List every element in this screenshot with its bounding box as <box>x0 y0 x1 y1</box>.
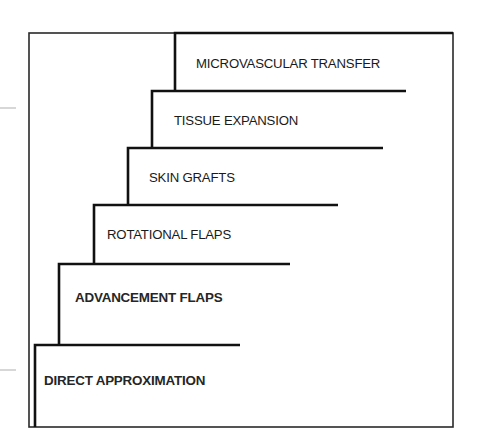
step-skin-grafts: SKIN GRAFTS <box>128 148 383 205</box>
step-tissue-expansion: TISSUE EXPANSION <box>152 91 406 148</box>
reconstructive-ladder-diagram: MICROVASCULAR TRANSFER TISSUE EXPANSION … <box>0 0 477 447</box>
step-advancement-flaps: ADVANCEMENT FLAPS <box>59 264 290 345</box>
step-label: SKIN GRAFTS <box>149 170 235 185</box>
step-direct-approximation: DIRECT APPROXIMATION <box>35 345 240 427</box>
step-label: TISSUE EXPANSION <box>174 113 298 128</box>
step-microvascular-transfer: MICROVASCULAR TRANSFER <box>175 33 453 91</box>
step-label: MICROVASCULAR TRANSFER <box>196 56 380 71</box>
step-label: ADVANCEMENT FLAPS <box>75 290 223 305</box>
ladder-steps: MICROVASCULAR TRANSFER TISSUE EXPANSION … <box>35 33 453 427</box>
step-label: DIRECT APPROXIMATION <box>44 373 205 388</box>
step-rotational-flaps: ROTATIONAL FLAPS <box>94 205 338 264</box>
step-label: ROTATIONAL FLAPS <box>107 227 231 242</box>
left-ticks <box>0 108 16 370</box>
